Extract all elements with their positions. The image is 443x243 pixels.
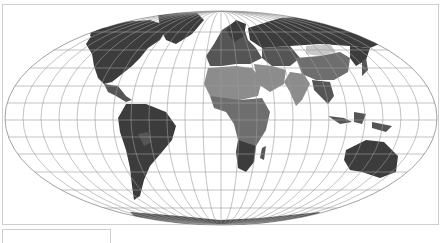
legend-box [2, 229, 111, 243]
